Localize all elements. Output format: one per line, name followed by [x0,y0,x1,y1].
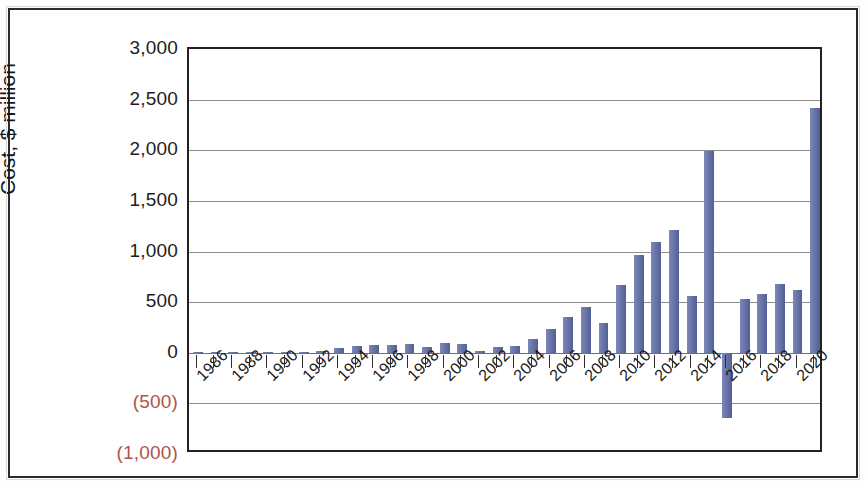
x-tick-1994 [337,355,338,368]
bar-2000 [440,343,450,352]
y-axis-label-1000: 1,000 [10,240,190,259]
y-axis-title: Cost, $ million [0,63,20,195]
x-tick-2002 [478,355,479,368]
x-tick-2013 [672,355,673,368]
bar-2020 [793,290,803,352]
bar-2018 [757,294,767,353]
plot-area [187,47,822,452]
x-tick-1995 [355,355,356,368]
bar-2015 [704,151,714,352]
y-axis-label-2500: 2,500 [10,88,190,107]
x-tick-2008 [584,355,585,368]
x-tick-2006 [549,355,550,368]
bar-1992 [299,352,309,353]
x-tick-2007 [566,355,567,368]
x-tick-2005 [531,355,532,368]
bar-2019 [775,284,785,353]
y-axis-label-500: (500) [10,392,190,411]
x-tick-2016 [725,355,726,368]
bar-2008 [581,307,591,353]
x-tick-2017 [743,355,744,368]
bar-2013 [669,230,679,353]
x-tick-1992 [302,355,303,368]
x-tick-1991 [284,355,285,368]
chart-screenshot: Cost, $ million 3,0002,5002,0001,5001,00… [0,0,866,486]
bar-2017 [740,299,750,353]
y-axis-label-500: 500 [10,291,190,310]
bar-1990 [263,352,273,353]
y-axis-label-1000: (1,000) [10,443,190,462]
bar-2011 [634,255,644,353]
x-tick-1997 [390,355,391,368]
x-tick-1986 [196,355,197,368]
x-tick-2020 [796,355,797,368]
bar-1988 [228,352,238,353]
bar-2021 [810,108,820,353]
bar-2014 [687,296,697,353]
x-tick-1993 [319,355,320,368]
x-tick-2019 [778,355,779,368]
y-axis-label-2000: 2,000 [10,139,190,158]
page-frame: Cost, $ million 3,0002,5002,0001,5001,00… [8,8,858,478]
bar-1996 [369,345,379,353]
bar-2012 [651,242,661,352]
x-tick-1987 [213,355,214,368]
bar-2002 [475,351,485,353]
bar-2006 [546,329,556,352]
x-tick-2014 [690,355,691,368]
x-tick-2001 [460,355,461,368]
bar-2010 [616,285,626,352]
bar-1994 [334,348,344,353]
y-axis-label-0: 0 [10,341,190,360]
bar-series [189,49,820,450]
x-tick-1988 [231,355,232,368]
x-tick-1999 [425,355,426,368]
bar-1986 [193,352,203,353]
bar-2004 [510,346,520,352]
x-tick-2011 [637,355,638,368]
y-axis-label-3000: 3,000 [10,38,190,57]
x-tick-2009 [602,355,603,368]
x-tick-2021 [813,355,814,368]
x-tick-2003 [496,355,497,368]
x-tick-2000 [443,355,444,368]
x-tick-1989 [249,355,250,368]
y-axis-label-1500: 1,500 [10,189,190,208]
x-tick-2015 [707,355,708,368]
bar-1998 [405,344,415,353]
